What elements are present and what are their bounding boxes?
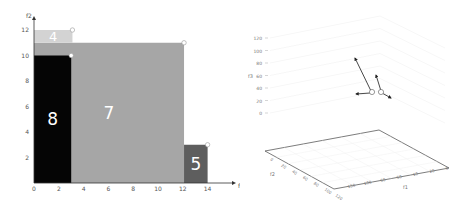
y-tick-label: 2 <box>25 154 29 161</box>
3d-chart-svg: 120100806040200f3020406080100120f2150100… <box>240 0 474 201</box>
y-tick-label: 6 <box>25 103 29 110</box>
f2-tick-label: 120 <box>334 193 343 201</box>
z-tick-label: 0 <box>259 111 262 116</box>
f1-tick-label: 150 <box>347 182 356 189</box>
rectangle-chart: 7485 0246810121424681012f1f2 <box>0 0 240 201</box>
f2-tick-label: 60 <box>302 175 309 182</box>
y-tick-label: 4 <box>25 128 29 135</box>
rectangle-chart-svg: 7485 0246810121424681012f1f2 <box>0 0 240 201</box>
corner-point <box>205 143 209 147</box>
x-tick-label: 4 <box>82 185 86 192</box>
f2-tick-label: 20 <box>280 163 287 170</box>
z-tick-label: 40 <box>256 86 262 91</box>
x-tick-label: 2 <box>57 185 61 192</box>
arrow-up-long-icon <box>355 58 371 91</box>
x-axis-arrow-icon <box>232 181 236 185</box>
f1-tick-label: 50 <box>396 174 402 180</box>
y-axis-label: f2 <box>26 12 32 19</box>
z-tick-label: 60 <box>256 74 262 79</box>
3d-grid <box>265 16 449 189</box>
f1-tick-label: 50 <box>380 177 386 183</box>
z-tick-label: 100 <box>253 49 262 54</box>
rectangle-label: 8 <box>47 109 58 129</box>
x-tick-label: 6 <box>106 185 110 192</box>
x-tick-label: 12 <box>179 185 187 192</box>
f1-tick-label: 100 <box>364 179 373 186</box>
f1-axis-label: f1 <box>403 184 408 190</box>
y-tick-label: 8 <box>25 77 29 84</box>
rectangles: 7485 <box>34 28 210 183</box>
point-marker <box>369 89 374 94</box>
rectangle-label: 4 <box>49 29 57 44</box>
x-tick-label: 10 <box>154 185 162 192</box>
3d-arrows <box>355 58 391 98</box>
x-tick-label: 8 <box>131 185 135 192</box>
f1-tick-label: 10 <box>413 171 419 177</box>
3d-labels: 120100806040200f3020406080100120f2150100… <box>248 36 449 201</box>
f2-axis-label: f2 <box>270 171 275 177</box>
y-axis-arrow-icon <box>32 16 36 20</box>
arrow-left-icon <box>356 93 370 94</box>
corner-point <box>70 28 74 32</box>
z-axis-label: f3 <box>248 73 253 79</box>
f2-tick-label: 0 <box>269 157 274 163</box>
z-tick-label: 20 <box>256 99 262 104</box>
f1-tick-label: 20 <box>429 168 435 174</box>
x-tick-label: 14 <box>204 185 212 192</box>
rectangle-label: 7 <box>104 103 115 123</box>
y-tick-label: 12 <box>21 26 29 33</box>
arrow-up-short-icon <box>376 75 381 91</box>
corner-point <box>182 41 186 45</box>
x-tick-label: 0 <box>32 185 36 192</box>
point-marker <box>378 89 383 94</box>
f2-tick-label: 80 <box>313 181 320 188</box>
f2-tick-label: 40 <box>291 169 298 176</box>
z-tick-label: 120 <box>253 36 262 41</box>
z-tick-label: 80 <box>256 61 262 66</box>
y-tick-label: 10 <box>21 52 29 59</box>
corner-point <box>69 53 73 57</box>
rectangle-label: 5 <box>190 154 201 174</box>
3d-quiver-chart: 120100806040200f3020406080100120f2150100… <box>240 0 474 201</box>
